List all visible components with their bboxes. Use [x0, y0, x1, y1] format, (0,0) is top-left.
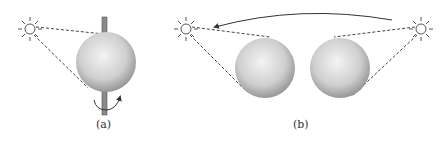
diagram-canvas	[0, 0, 446, 145]
panel-b	[174, 13, 433, 98]
panel-a	[18, 17, 136, 115]
sphere-left	[235, 38, 295, 98]
sun-icon-left	[174, 17, 198, 41]
sphere-right	[310, 38, 370, 98]
sphere	[76, 32, 136, 92]
sun-icon-right	[409, 17, 433, 41]
motion-arrow-icon	[215, 13, 392, 27]
panel-a-label: (a)	[96, 118, 111, 131]
panel-b-label: (b)	[293, 118, 309, 131]
sun-icon	[18, 17, 42, 41]
